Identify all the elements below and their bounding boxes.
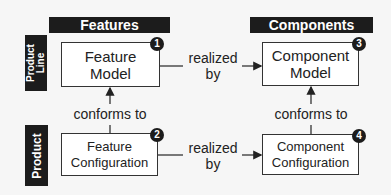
badge-4: 4 [352,129,366,143]
component-configuration-line2: Configuration [272,155,349,171]
feature-model-node: Feature Model [61,42,160,87]
component-model-line1: Component [272,47,350,64]
realized-bottom-line1: realized [181,140,245,156]
feature-configuration-node: Feature Configuration [61,133,158,176]
realized-top-line2: by [181,66,245,82]
product-line-label-line2: Line [36,44,46,82]
conforms-to-left-label: conforms to [60,106,160,122]
badge-3: 3 [352,37,366,51]
component-configuration-line1: Component [277,139,344,155]
badge-1: 1 [150,37,164,51]
component-model-node: Component Model [262,42,359,86]
component-model-line2: Model [290,64,331,81]
conforms-to-right-label: conforms to [261,106,361,122]
feature-configuration-line1: Feature [87,139,132,155]
feature-model-line1: Feature [85,48,137,65]
component-configuration-node: Component Configuration [262,134,359,175]
realized-top-line1: realized [181,50,245,66]
realized-bottom-line2: by [181,156,245,172]
components-header: Components [250,17,373,33]
product-row-label: Product [25,125,48,186]
badge-2: 2 [150,128,164,142]
realized-by-top-label: realized by [181,50,245,82]
feature-model-line2: Model [90,65,131,82]
realized-by-bottom-label: realized by [181,140,245,172]
feature-configuration-line2: Configuration [71,155,148,171]
features-header: Features [49,17,170,33]
product-line-row-label: Product Line [25,35,47,91]
